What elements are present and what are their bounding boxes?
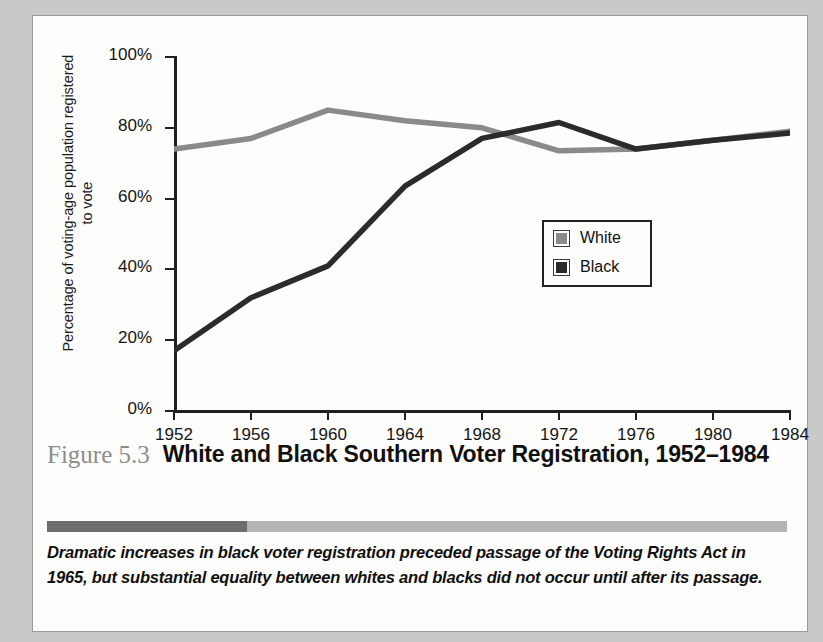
y-tick-label: 60%	[118, 187, 152, 207]
figure-title: White and Black Southern Voter Registrat…	[163, 440, 769, 468]
x-tick	[250, 411, 252, 420]
x-tick	[327, 411, 329, 420]
divider-rule-dark	[47, 521, 247, 532]
x-tick	[404, 411, 406, 420]
x-tick	[789, 411, 791, 420]
x-tick	[173, 411, 175, 420]
y-tick: 100%	[165, 56, 174, 58]
y-tick-label: 40%	[118, 257, 152, 277]
figure-heading: Figure 5.3 White and Black Southern Vote…	[47, 440, 787, 471]
y-tick: 80%	[165, 127, 174, 129]
x-tick	[558, 411, 560, 420]
legend-item-white: White	[554, 229, 621, 247]
legend-label-white: White	[580, 229, 621, 247]
legend-swatch-black	[554, 260, 569, 275]
x-tick	[481, 411, 483, 420]
y-tick-label: 0%	[127, 399, 152, 419]
y-tick-label: 100%	[109, 45, 152, 65]
y-tick: 60%	[165, 198, 174, 200]
y-tick: 40%	[165, 268, 174, 270]
divider-rule	[47, 521, 787, 532]
y-tick-label: 20%	[118, 328, 152, 348]
series-lines	[174, 57, 790, 411]
divider-rule-light	[247, 521, 787, 532]
chart-area: Percentage of voting-age population regi…	[33, 16, 809, 436]
x-tick	[635, 411, 637, 420]
legend-swatch-white	[554, 231, 569, 246]
legend-label-black: Black	[580, 258, 619, 276]
y-axis-title: Percentage of voting-age population regi…	[59, 53, 97, 353]
figure-number: Figure 5.3	[47, 440, 150, 471]
chart-legend: White Black	[542, 220, 652, 287]
x-tick	[712, 411, 714, 420]
y-tick-label: 80%	[118, 116, 152, 136]
figure-caption: Dramatic increases in black voter regist…	[47, 540, 772, 590]
legend-item-black: Black	[554, 258, 619, 276]
figure-card: Percentage of voting-age population regi…	[32, 15, 808, 632]
plot-area: 0%20%40%60%80%100% 195219561960196419681…	[174, 57, 790, 411]
line-black	[174, 122, 790, 350]
y-tick: 20%	[165, 339, 174, 341]
figure-page: Percentage of voting-age population regi…	[0, 0, 823, 642]
